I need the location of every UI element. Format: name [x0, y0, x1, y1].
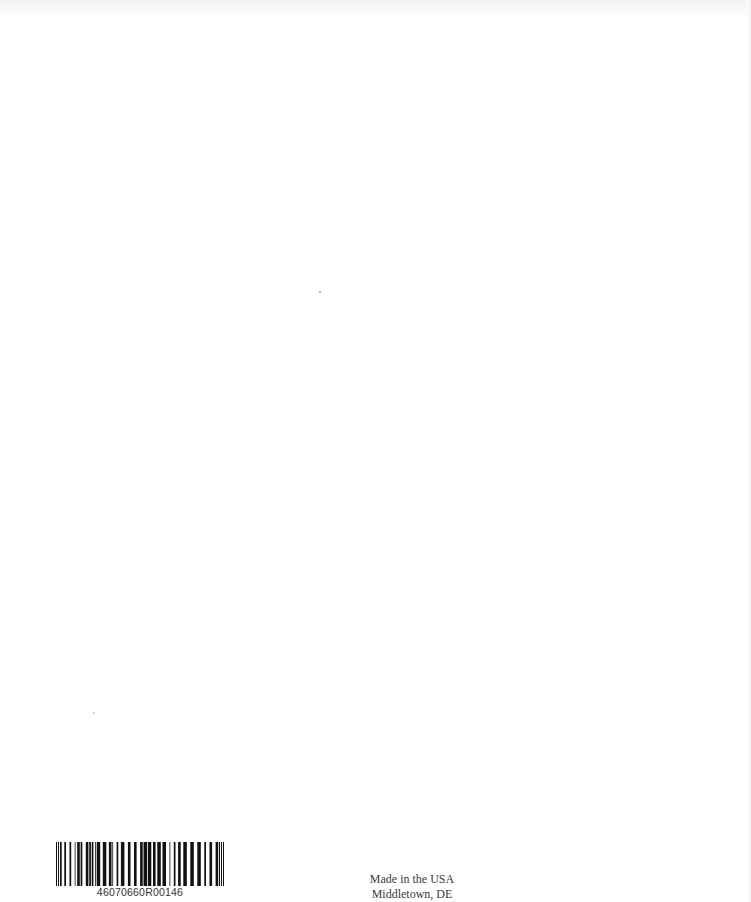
barcode-block: 46070660R00146	[56, 842, 226, 898]
printer-imprint: Made in the USA Middletown, DE	[332, 872, 492, 902]
blank-page: 46070660R00146 Made in the USA Middletow…	[0, 0, 751, 902]
barcode-icon	[56, 842, 224, 886]
barcode-number: 46070660R00146	[56, 886, 224, 898]
page-edge-shadow	[747, 0, 751, 902]
dust-speck	[93, 712, 95, 714]
dust-speck	[319, 291, 321, 293]
imprint-line-made-in: Made in the USA	[332, 872, 492, 887]
imprint-line-location: Middletown, DE	[332, 887, 492, 902]
